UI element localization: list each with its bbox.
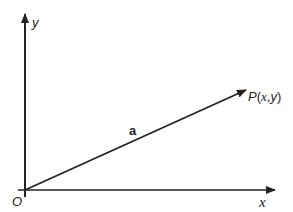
point-label: P(x,y) xyxy=(248,89,281,104)
vector-a xyxy=(25,90,246,190)
point-label-close: ) xyxy=(277,89,281,104)
point-label-p: P xyxy=(248,89,257,104)
origin-label: O xyxy=(12,194,22,209)
y-axis-label: y xyxy=(31,15,40,30)
x-axis-label: x xyxy=(258,194,266,210)
diagram-canvas: y x O a P(x,y) xyxy=(0,0,293,212)
vector-label: a xyxy=(129,123,137,138)
